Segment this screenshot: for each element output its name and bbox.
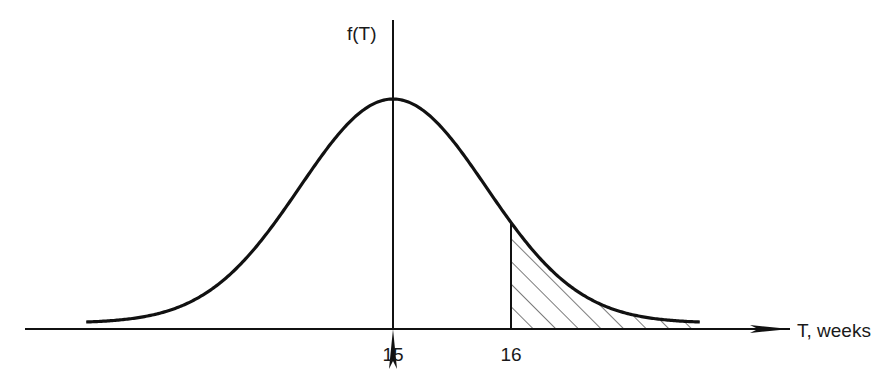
y-axis-label: f(T) [347, 23, 377, 44]
x-tick-label-16: 16 [500, 344, 521, 365]
x-axis-label: T, weeks [797, 320, 871, 341]
normal-distribution-chart: f(T) T, weeks 1516 [0, 0, 892, 376]
shaded-tail-region [511, 222, 700, 329]
x-tick-label-15: 15 [382, 344, 403, 365]
